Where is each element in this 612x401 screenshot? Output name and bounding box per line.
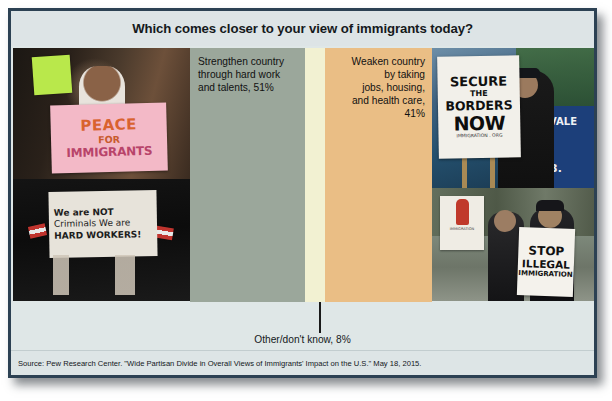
- bar-label-strengthen-line-1: Strengthen country: [198, 56, 284, 67]
- not-criminals-line-3: HARD WORKERS!: [54, 230, 141, 241]
- bar-label-other: Other/don't know, 8%: [11, 334, 594, 345]
- stop-illegal-line-1: STOP: [528, 245, 564, 259]
- photo-secure-the-borders: VALE 3. SECURE THE BORDERS NOW IMMIGRATI…: [432, 48, 594, 188]
- bar-label-weaken-line-1: Weaken country: [352, 56, 425, 67]
- bar-label-weaken-line-5: 41%: [405, 108, 425, 119]
- chart-stage: PEACE FOR IMMIGRANTS We are NOT Criminal…: [11, 46, 594, 302]
- slide-frame: Which comes closer to your view of immig…: [8, 8, 597, 378]
- bar-segment-other: [305, 48, 325, 302]
- title-band: Which comes closer to your view of immig…: [11, 11, 594, 46]
- protester-cap: [536, 200, 564, 211]
- leader-line: [319, 302, 321, 333]
- page-title: Which comes closer to your view of immig…: [132, 21, 473, 36]
- bar-label-weaken-line-4: and health care,: [352, 95, 425, 106]
- slide-background: Which comes closer to your view of immig…: [11, 11, 594, 375]
- peace-sign-line-1: PEACE: [80, 117, 137, 134]
- not-criminals-line-1: We are NOT: [54, 208, 114, 219]
- secondary-placard: IMMIGRATION: [440, 196, 484, 250]
- bar-label-strengthen-line-3: and talents, 51%: [198, 82, 274, 93]
- placard-caption: IMMIGRATION: [450, 228, 474, 232]
- us-flag-icon: [155, 226, 174, 241]
- bar-label-weaken-line-3: jobs, housing,: [362, 82, 425, 93]
- photo-peace-for-immigrants: PEACE FOR IMMIGRANTS: [13, 48, 190, 179]
- stop-illegal-sign: STOP ILLEGAL IMMIGRATION: [517, 227, 575, 297]
- secure-borders-line-2: THE: [470, 89, 488, 98]
- secure-borders-line-4: NOW: [453, 113, 505, 134]
- sign-post: [490, 156, 495, 188]
- protester-head: [494, 210, 516, 232]
- bar-label-strengthen: Strengthen country through hard work and…: [198, 55, 300, 94]
- photo-stop-illegal-immigration: IMMIGRATION STOP ILLEGAL IMMIGRATION: [432, 188, 594, 301]
- source-note: Source: Pew Research Center. "Wide Parti…: [11, 359, 421, 368]
- green-placard: [32, 55, 73, 96]
- not-criminals-line-2: Criminals We are: [54, 219, 131, 230]
- peace-sign: PEACE FOR IMMIGRANTS: [50, 102, 168, 173]
- peace-sign-line-2: FOR: [98, 134, 120, 145]
- peace-sign-line-3: IMMIGRANTS: [66, 144, 152, 159]
- source-band: Source: Pew Research Center. "Wide Parti…: [11, 350, 594, 375]
- bar-label-weaken-line-2: by taking: [384, 69, 425, 80]
- screenshot-root: Which comes closer to your view of immig…: [0, 0, 612, 401]
- placard-figure: [456, 199, 469, 225]
- secure-borders-sign: SECURE THE BORDERS NOW IMMIGRATION . ORG: [437, 55, 521, 158]
- secure-borders-line-3: BORDERS: [445, 98, 513, 112]
- bar-label-weaken: Weaken country by taking jobs, housing, …: [333, 55, 425, 120]
- sign-post: [462, 156, 467, 188]
- not-criminals-sign: We are NOT Criminals We are HARD WORKERS…: [48, 190, 157, 258]
- secure-borders-line-5: IMMIGRATION . ORG: [456, 134, 502, 140]
- hands-holding-sign: [53, 255, 153, 295]
- stop-illegal-line-3: IMMIGRATION: [518, 270, 573, 279]
- photo-we-are-not-criminals: We are NOT Criminals We are HARD WORKERS…: [13, 179, 190, 301]
- secure-borders-line-1: SECURE: [450, 74, 507, 89]
- bar-label-strengthen-line-2: through hard work: [198, 69, 280, 80]
